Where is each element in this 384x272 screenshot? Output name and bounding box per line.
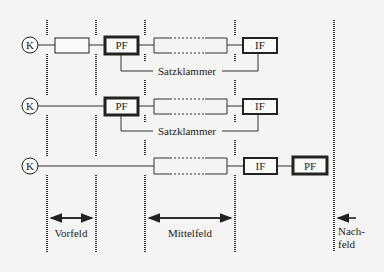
right-bracket-pf-label: PF (304, 160, 316, 172)
nachfeld-label-line2: feld (338, 238, 356, 250)
right-bracket-label: IF (255, 100, 265, 112)
mittelfeld-box (154, 99, 227, 114)
vorfeld-span: Vorfeld (51, 218, 92, 239)
left-bracket-label: PF (115, 39, 127, 51)
vorfeld-label: Vorfeld (55, 227, 88, 239)
mittelfeld-span: Mittelfeld (149, 218, 231, 239)
nachfeld-span: Nach- feld (338, 218, 365, 250)
row-2: K PF IF Satzklammer (22, 98, 277, 137)
mittelfeld-box (154, 38, 227, 53)
k-label: K (26, 39, 34, 51)
mittelfeld-label: Mittelfeld (168, 227, 212, 239)
mittelfeld-box (154, 158, 227, 174)
vorfeld-slot-box (55, 38, 89, 53)
right-bracket-label: IF (255, 39, 265, 51)
nachfeld-label-line1: Nach- (338, 225, 365, 237)
k-label: K (26, 160, 34, 172)
k-label: K (26, 100, 34, 112)
left-bracket-label: PF (115, 100, 127, 112)
row-1: K PF IF Satzklammer (22, 37, 277, 77)
right-bracket-if-label: IF (256, 160, 266, 172)
satzklammer-label: Satzklammer (158, 65, 216, 77)
row-3: K IF PF (22, 157, 327, 174)
topological-field-diagram: K PF IF Satzklammer K PF (0, 0, 384, 272)
satzklammer-label: Satzklammer (158, 125, 216, 137)
